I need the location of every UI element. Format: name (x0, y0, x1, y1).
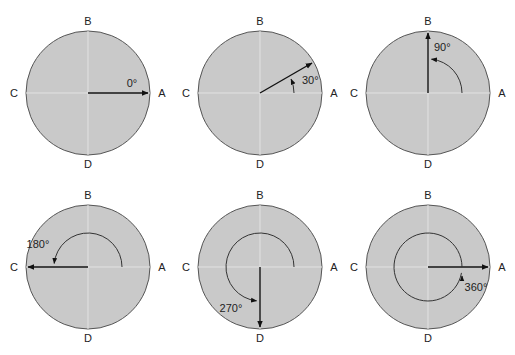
label-d: D (256, 158, 264, 170)
label-b: B (84, 189, 91, 201)
label-c: C (182, 261, 190, 273)
angle-label: 30° (302, 74, 319, 86)
label-c: C (10, 261, 18, 273)
angle-label: 180° (27, 238, 50, 250)
rotation-diagram-90: ABCD90° (350, 15, 506, 170)
rotation-diagram-360: ABCD360° (350, 189, 506, 344)
label-c: C (182, 87, 190, 99)
angle-label: 90° (434, 41, 451, 53)
label-d: D (424, 158, 432, 170)
rotation-diagrams: ABCD0°ABCD30°ABCD90°ABCD180°ABCD270°ABCD… (0, 0, 515, 355)
label-c: C (10, 87, 18, 99)
label-c: C (350, 261, 358, 273)
label-a: A (158, 261, 166, 273)
label-b: B (424, 15, 431, 27)
label-d: D (84, 332, 92, 344)
label-b: B (256, 189, 263, 201)
label-a: A (330, 261, 338, 273)
label-b: B (424, 189, 431, 201)
rotation-diagram-180: ABCD180° (10, 189, 166, 344)
label-d: D (424, 332, 432, 344)
angle-label: 0° (127, 77, 138, 89)
label-a: A (330, 87, 338, 99)
label-b: B (84, 15, 91, 27)
label-b: B (256, 15, 263, 27)
rotation-diagram-270: ABCD270° (182, 189, 338, 344)
angle-label: 360° (465, 281, 488, 293)
label-d: D (256, 332, 264, 344)
label-a: A (498, 261, 506, 273)
rotation-diagram-30: ABCD30° (182, 15, 338, 170)
label-a: A (158, 87, 166, 99)
label-d: D (84, 158, 92, 170)
label-c: C (350, 87, 358, 99)
angle-label: 270° (220, 302, 243, 314)
label-a: A (498, 87, 506, 99)
rotation-diagram-0: ABCD0° (10, 15, 166, 170)
